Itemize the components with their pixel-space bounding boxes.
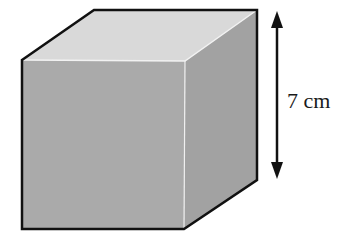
- cube-diagram: 7 cm: [0, 0, 347, 249]
- arrow-up-icon: [271, 11, 283, 28]
- dimension-label: 7 cm: [287, 88, 330, 113]
- arrow-down-icon: [271, 162, 283, 179]
- cube-front-face: [22, 60, 185, 229]
